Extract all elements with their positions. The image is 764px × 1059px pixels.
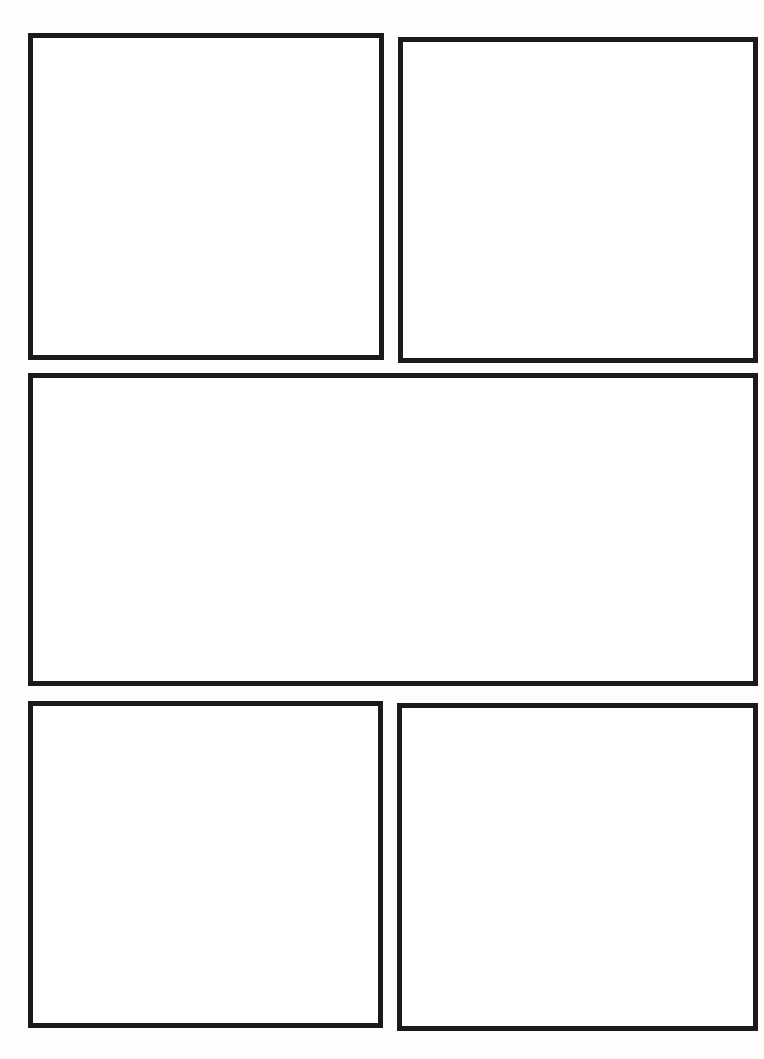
panel-bottom-left	[28, 701, 383, 1028]
panel-top-left	[28, 33, 384, 360]
panel-top-right	[398, 37, 758, 363]
comic-page	[0, 0, 764, 1059]
panel-middle-wide	[28, 373, 758, 686]
panel-bottom-right	[397, 703, 758, 1031]
